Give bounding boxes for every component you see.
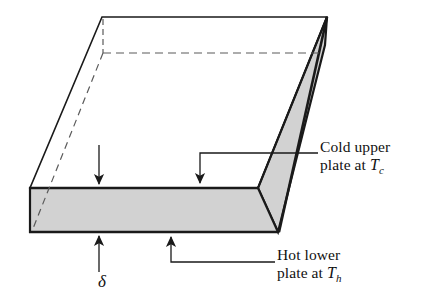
thickness-label: δ [98,272,106,292]
cold-plate-label-prefix: plate at [320,156,370,173]
cold-plate-label: Cold upper plate at Tc [320,138,390,179]
cold-plate-temperature-subscript: c [379,164,384,176]
cold-plate-label-line1: Cold upper [320,138,390,156]
cold-plate-temperature-symbol: T [370,156,379,173]
hot-plate-label-line1: Hot lower [277,246,341,264]
hot-plate-temperature-symbol: T [327,264,336,281]
hot-plate-leader-line [171,237,275,262]
hot-plate-temperature-subscript: h [336,272,342,284]
cold-plate-label-line2: plate at Tc [320,156,390,179]
slab-conduction-figure: Cold upper plate at Tc Hot lower plate a… [0,0,431,307]
hot-plate-label-line2: plate at Th [277,264,341,287]
slab-front-face [30,188,278,232]
hot-plate-label-prefix: plate at [277,264,327,281]
hot-plate-label: Hot lower plate at Th [277,246,341,287]
